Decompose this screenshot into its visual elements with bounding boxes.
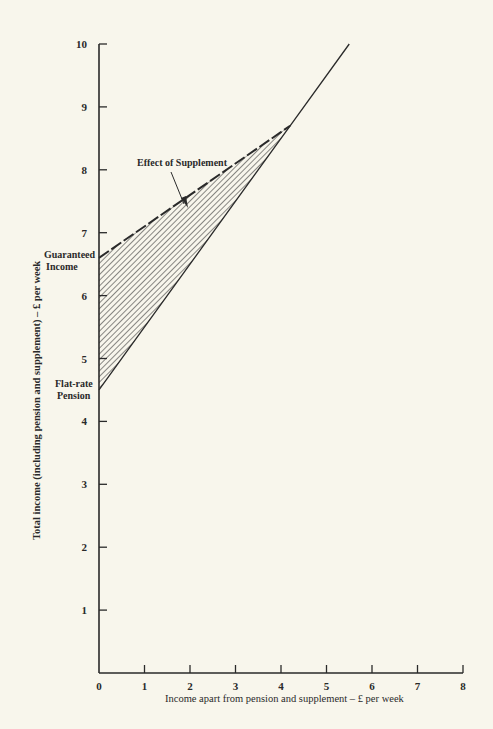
x-axis-title: Income apart from pension and supplement… — [165, 693, 405, 704]
effect-of-supplement-label: Effect of Supplement — [137, 157, 228, 168]
y-tick-label: 3 — [82, 478, 88, 490]
flat-rate-pension-label-line2: Pension — [57, 390, 91, 401]
y-tick-label: 8 — [82, 164, 88, 176]
series-lines — [99, 44, 349, 390]
y-tick-label: 10 — [76, 38, 88, 50]
y-axis-title: Total income (including pension and supp… — [31, 261, 43, 540]
guaranteed-income-label-line2: Income — [46, 261, 78, 272]
flat-rate-pension-label-line1: Flat-rate — [55, 378, 93, 389]
y-tick-label: 1 — [82, 604, 88, 616]
y-tick-label: 7 — [82, 227, 88, 239]
x-tick-label: 7 — [415, 680, 421, 692]
y-tick-label: 5 — [82, 353, 88, 365]
x-tick-label: 3 — [233, 680, 239, 692]
x-tick-label: 5 — [324, 680, 330, 692]
y-tick-label: 9 — [82, 101, 88, 113]
guaranteed-income-label-line1: Guaranteed — [44, 249, 96, 260]
x-tick-label: 2 — [187, 680, 193, 692]
tick-labels: 12345678910012345678 — [76, 38, 466, 692]
y-tick-label: 4 — [82, 415, 88, 427]
x-tick-label: 4 — [278, 680, 284, 692]
x-tick-label: 6 — [369, 680, 375, 692]
income-chart: 12345678910012345678 Guaranteed Income F… — [0, 0, 493, 729]
y-tick-label: 6 — [82, 290, 88, 302]
x-tick-label: 0 — [96, 680, 102, 692]
series-line — [99, 44, 349, 390]
x-tick-label: 1 — [142, 680, 148, 692]
x-tick-label: 8 — [460, 680, 466, 692]
y-tick-label: 2 — [82, 541, 88, 553]
